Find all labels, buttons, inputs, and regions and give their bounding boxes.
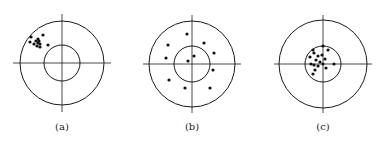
shot-dot — [308, 55, 311, 58]
shot-dot — [332, 62, 335, 65]
shot-dot — [212, 51, 215, 54]
shot-dot — [316, 64, 319, 67]
shot-dot — [321, 44, 324, 47]
shot-dot — [318, 60, 321, 63]
shot-dot — [211, 68, 214, 71]
shot-dot — [37, 39, 40, 42]
shot-dot — [38, 42, 41, 45]
shot-dot — [183, 86, 186, 89]
shot-dot — [41, 33, 44, 36]
shot-dot — [324, 66, 327, 69]
shot-dot — [321, 62, 324, 65]
shot-dot — [202, 41, 205, 44]
shot-dot — [309, 62, 312, 65]
shot-dot — [323, 57, 326, 60]
shot-dot — [311, 48, 314, 51]
shot-dot — [313, 68, 316, 71]
shot-dot — [312, 63, 315, 66]
target-panel-b — [143, 15, 241, 113]
shot-dot — [320, 53, 323, 56]
shot-dot — [326, 48, 329, 51]
shot-dot — [35, 44, 38, 47]
shot-dot — [312, 51, 315, 54]
shot-dot — [38, 45, 41, 48]
shot-dot — [167, 78, 170, 81]
shot-dot — [166, 43, 169, 46]
target-panel-a — [13, 14, 111, 112]
shot-dot — [29, 35, 32, 38]
shot-dot — [208, 86, 211, 89]
shot-dot — [28, 40, 31, 43]
panel-label-c: (c) — [303, 121, 343, 132]
shot-dot — [32, 42, 35, 45]
shot-dot — [311, 72, 314, 75]
shot-dot — [316, 54, 319, 57]
target-panel-c — [274, 15, 372, 113]
panel-label-a: (a) — [42, 121, 82, 132]
shot-dot — [185, 32, 188, 35]
panel-label-b: (b) — [172, 121, 212, 132]
shot-dot — [46, 43, 49, 46]
shot-dot — [164, 56, 167, 59]
shot-dot — [186, 59, 189, 62]
shot-dot — [192, 54, 195, 57]
shot-dot — [314, 58, 317, 61]
